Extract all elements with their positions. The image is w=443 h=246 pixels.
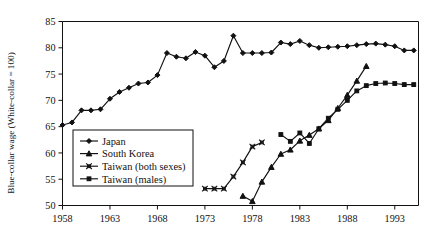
- line-chart: 5055606570758085 19581963196819731978198…: [0, 0, 443, 246]
- data-point: [412, 83, 416, 87]
- marker-triangle: [297, 138, 303, 143]
- marker-diamond: [136, 81, 141, 86]
- data-point: [240, 160, 246, 166]
- data-point: [345, 98, 349, 102]
- marker-diamond: [411, 48, 416, 53]
- y-tick-label: 50: [45, 200, 55, 211]
- x-tick-label: 1963: [100, 213, 120, 224]
- marker-diamond: [288, 42, 293, 47]
- x-tick-label: 1973: [195, 213, 215, 224]
- data-point: [164, 51, 169, 56]
- data-point: [250, 144, 256, 150]
- marker-triangle: [250, 198, 256, 203]
- marker-diamond: [297, 38, 302, 43]
- data-point: [317, 127, 321, 131]
- data-point: [126, 85, 131, 90]
- marker-diamond: [392, 44, 397, 49]
- marker-diamond: [354, 43, 359, 48]
- data-point: [402, 48, 407, 53]
- data-point: [383, 81, 387, 85]
- marker-diamond: [402, 48, 407, 53]
- y-tick-marks: [59, 22, 63, 206]
- marker-square: [317, 127, 321, 131]
- legend-label: Taiwan (both sexes): [102, 161, 186, 173]
- data-point: [336, 107, 340, 111]
- marker-square: [345, 98, 349, 102]
- chart-legend: JapanSouth KoreaTaiwan (both sexes)Taiwa…: [73, 130, 193, 186]
- marker-triangle: [363, 63, 369, 68]
- marker-diamond: [326, 45, 331, 50]
- legend-label: Japan: [102, 136, 126, 147]
- data-point: [250, 51, 255, 56]
- series-line: [205, 142, 262, 188]
- data-point: [250, 198, 256, 203]
- x-tick-label: 1978: [242, 213, 262, 224]
- marker-diamond: [316, 45, 321, 50]
- marker-square: [326, 116, 330, 120]
- data-point: [364, 84, 368, 88]
- marker-square: [364, 84, 368, 88]
- series-line: [63, 36, 414, 125]
- data-point: [298, 131, 302, 135]
- marker-square: [336, 107, 340, 111]
- data-point: [279, 133, 283, 137]
- marker-diamond: [231, 33, 236, 38]
- data-point: [392, 44, 397, 49]
- data-point: [278, 151, 284, 156]
- data-point: [402, 83, 406, 87]
- marker-square: [87, 177, 91, 181]
- data-point: [326, 45, 331, 50]
- y-tick-label: 70: [45, 95, 55, 106]
- marker-diamond: [250, 51, 255, 56]
- data-point: [307, 132, 313, 137]
- data-point: [231, 174, 237, 180]
- data-point: [174, 54, 179, 59]
- marker-diamond: [373, 41, 378, 46]
- data-point: [411, 48, 416, 53]
- data-point: [355, 89, 359, 93]
- y-axis-label: Blue-collar wage (White-collar = 100): [6, 52, 16, 193]
- data-point: [374, 82, 378, 86]
- x-tick-label: 1958: [52, 213, 72, 224]
- marker-diamond: [88, 108, 93, 113]
- data-point: [307, 43, 312, 48]
- marker-square: [307, 142, 311, 146]
- legend-marker: [87, 177, 91, 181]
- data-point: [316, 45, 321, 50]
- marker-diamond: [174, 54, 179, 59]
- series-taiwan-both-sexes: [202, 140, 265, 192]
- marker-triangle: [240, 193, 246, 198]
- marker-diamond: [345, 44, 350, 49]
- marker-diamond: [164, 51, 169, 56]
- marker-diamond: [307, 43, 312, 48]
- data-point: [297, 38, 302, 43]
- y-tick-label: 85: [45, 16, 55, 27]
- x-tick-label: 1993: [385, 213, 405, 224]
- marker-square: [355, 89, 359, 93]
- marker-diamond: [335, 44, 340, 49]
- x-tick-marks: [63, 206, 395, 210]
- data-point: [136, 81, 141, 86]
- marker-square: [393, 82, 397, 86]
- data-point: [297, 138, 303, 143]
- data-point: [326, 116, 330, 120]
- marker-diamond: [383, 42, 388, 47]
- legend-label: South Korea: [102, 148, 155, 159]
- series-japan: [60, 33, 416, 127]
- marker-square: [279, 133, 283, 137]
- marker-square: [374, 82, 378, 86]
- series-south-korea: [240, 63, 369, 203]
- data-point: [354, 43, 359, 48]
- data-point: [363, 63, 369, 68]
- marker-square: [288, 139, 292, 143]
- x-tick-labels: 19581963196819731978198319881993: [52, 213, 405, 224]
- marker-diamond: [240, 51, 245, 56]
- data-point: [335, 44, 340, 49]
- chart-figure: 5055606570758085 19581963196819731978198…: [0, 0, 443, 246]
- marker-diamond: [126, 85, 131, 90]
- data-point: [288, 42, 293, 47]
- y-tick-label: 80: [45, 42, 55, 53]
- series-taiwan-males: [279, 81, 416, 145]
- y-tick-label: 60: [45, 148, 55, 159]
- x-tick-label: 1968: [147, 213, 167, 224]
